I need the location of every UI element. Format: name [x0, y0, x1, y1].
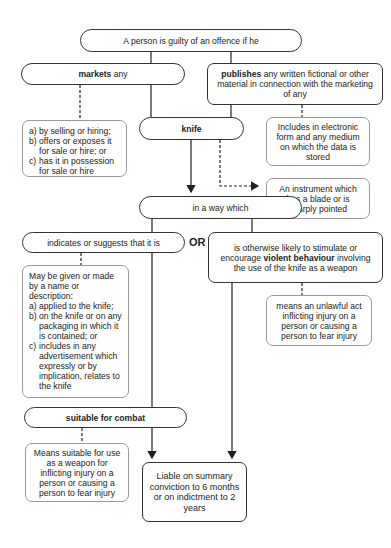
penalty-box: Liable on summary conviction to 6 months… [142, 462, 247, 522]
list-item: c)includes in any advertisement which ex… [29, 341, 122, 391]
unlawful-act-note: means an unlawful act inflicting injury … [266, 295, 372, 346]
otherwise-box: is otherwise likely to stimulate or enco… [208, 232, 383, 283]
list-item: a)applied to the knife; [29, 301, 122, 311]
suitable-for-combat-box: suitable for combat [24, 407, 187, 428]
list-item: a)by selling or hiring; [29, 126, 120, 136]
or-label: OR [189, 236, 206, 248]
suitable-note: Means suitable for use as a weapon for i… [25, 443, 129, 502]
list-item: c)has it in possession for sale or hire [29, 156, 120, 176]
publishes-bold: publishes [221, 69, 261, 79]
in-a-way-box: in a way which [139, 196, 302, 219]
markets-box: markets any [21, 63, 185, 85]
may-be-given-note: May be given or made by a name or descri… [22, 265, 129, 398]
list-item: b)on the knife or on any packaging in wh… [29, 311, 122, 341]
publishes-box: publishes any written fictional or other… [207, 63, 383, 105]
knife-text: knife [181, 124, 201, 134]
root-condition-box: A person is guilty of an offence if he [80, 29, 302, 52]
root-condition-text: A person is guilty of an offence if he [123, 36, 259, 46]
includes-note: Includes in electronic form and any medi… [266, 117, 370, 166]
indicates-box: indicates or suggests that it is [22, 232, 185, 253]
markets-detail-note: a)by selling or hiring; b)offers or expo… [22, 120, 127, 177]
knife-box: knife [139, 117, 244, 140]
markets-bold: markets [78, 69, 111, 79]
list-item: b)offers or exposes it for sale or hire;… [29, 136, 120, 156]
markets-rest: any [111, 69, 127, 79]
